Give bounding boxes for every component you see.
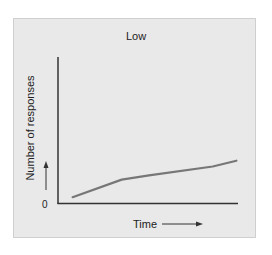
- plot-area: [0, 0, 272, 255]
- right-arrow-icon: [162, 222, 203, 227]
- data-line-low: [73, 161, 237, 198]
- up-arrow-icon: [44, 161, 49, 190]
